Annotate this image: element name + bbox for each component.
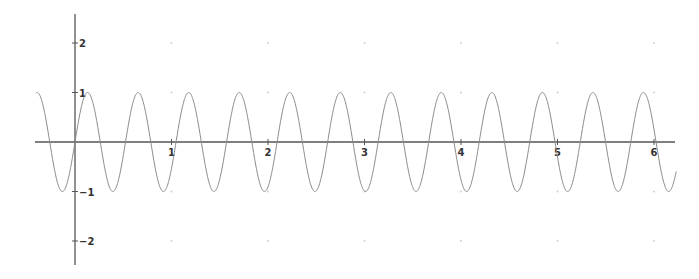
grid-dot xyxy=(460,42,462,44)
grid-dot xyxy=(171,92,173,94)
y-tick-label: 2 xyxy=(79,38,86,49)
grid-dot xyxy=(267,240,269,242)
grid-dot xyxy=(460,240,462,242)
x-tick-label: 3 xyxy=(361,147,368,158)
x-tick-label: 6 xyxy=(651,147,658,158)
grid-dot xyxy=(364,92,366,94)
function-plot: 123456 −2−112 xyxy=(0,0,699,279)
grid-dot xyxy=(267,92,269,94)
grid-dot xyxy=(653,42,655,44)
grid-dot xyxy=(267,191,269,193)
grid-dot xyxy=(557,240,559,242)
grid-dot xyxy=(171,191,173,193)
x-tick-label: 2 xyxy=(265,147,272,158)
grid-dot xyxy=(653,191,655,193)
y-tick-label: −2 xyxy=(79,236,94,247)
grid-dot xyxy=(364,42,366,44)
y-tick-label: −1 xyxy=(79,187,94,198)
y-tick-label: 1 xyxy=(79,88,86,99)
grid-dot xyxy=(557,191,559,193)
grid-dot xyxy=(460,191,462,193)
grid-dot xyxy=(653,92,655,94)
grid-dot xyxy=(267,42,269,44)
grid-dot xyxy=(364,240,366,242)
grid-dot xyxy=(557,92,559,94)
grid-dot xyxy=(171,42,173,44)
x-tick-label: 4 xyxy=(458,147,465,158)
grid-dot xyxy=(171,240,173,242)
grid-dot xyxy=(460,92,462,94)
grid-dot xyxy=(557,42,559,44)
grid-dot xyxy=(653,240,655,242)
